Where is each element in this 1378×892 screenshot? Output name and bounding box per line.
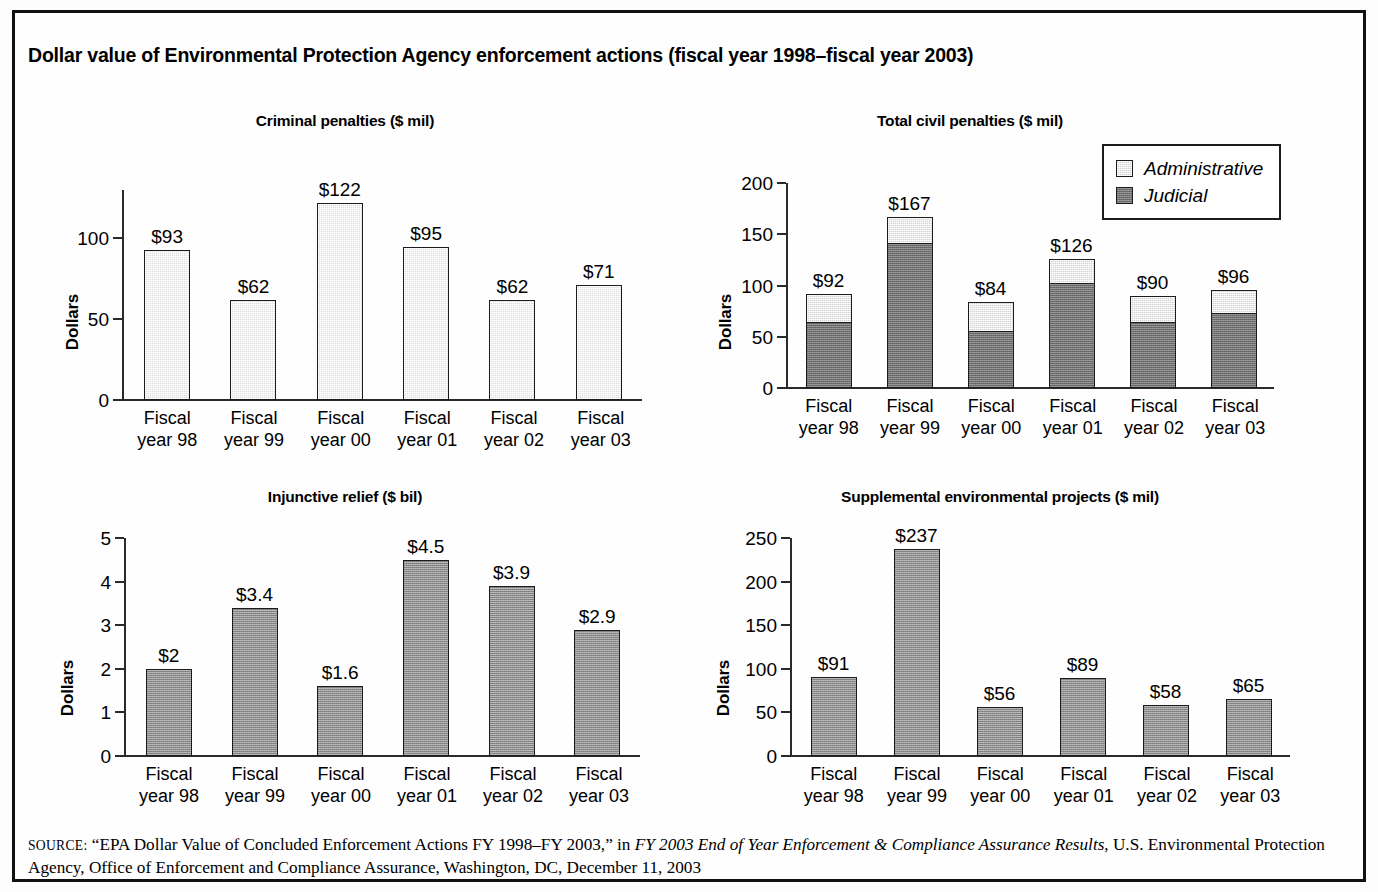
x-axis-label: Fiscalyear 02 — [471, 408, 558, 452]
bar[interactable]: $56 — [977, 707, 1023, 756]
bar-slot: $84 — [950, 183, 1031, 388]
bar[interactable]: $122 — [317, 203, 363, 400]
bar[interactable]: $95 — [403, 247, 449, 400]
bar[interactable]: $93 — [144, 250, 190, 400]
x-axis-label-line1: Fiscal — [1125, 764, 1208, 786]
legend-swatch-administrative-icon — [1116, 160, 1133, 177]
bar-value-label: $126 — [1050, 236, 1092, 255]
x-axis-label-line1: Fiscal — [951, 396, 1032, 418]
source-note: SOURCE: “EPA Dollar Value of Concluded E… — [28, 834, 1338, 879]
x-axis-label-line2: year 02 — [471, 430, 558, 452]
bar[interactable]: $91 — [811, 677, 857, 756]
legend-item-judicial[interactable]: Judicial — [1116, 182, 1263, 209]
x-axis-label: Fiscalyear 01 — [384, 408, 471, 452]
bar[interactable]: $3.4 — [232, 608, 278, 756]
x-axis-label-line2: year 02 — [1113, 418, 1194, 440]
chart-ylabel-supplemental-environmental-projects: Dollars — [714, 648, 734, 728]
chart-ylabel-criminal-penalties: Dollars — [63, 282, 83, 362]
y-tick-label: 5 — [100, 529, 111, 548]
bar[interactable]: $126 — [1049, 259, 1095, 388]
chart-title-supplemental-environmental-projects: Supplemental environmental projects ($ m… — [700, 488, 1300, 506]
bar-value-label: $3.4 — [236, 585, 273, 604]
bar-segment-judicial[interactable] — [1050, 283, 1094, 387]
bar-segment-administrative[interactable] — [1050, 260, 1094, 283]
bar[interactable]: $65 — [1226, 699, 1272, 756]
bar-segment-judicial[interactable] — [807, 322, 851, 387]
bar[interactable]: $2.9 — [574, 630, 620, 756]
bar-slot: $65 — [1207, 538, 1290, 756]
bar[interactable]: $84 — [968, 302, 1014, 388]
x-axis-label-line2: year 03 — [557, 430, 644, 452]
bar-slot: $237 — [875, 538, 958, 756]
bar[interactable]: $89 — [1060, 678, 1106, 756]
bar-value-label: $91 — [818, 654, 850, 673]
x-axis-label-line2: year 01 — [1032, 418, 1113, 440]
bar-value-label: $71 — [583, 262, 615, 281]
bar[interactable]: $58 — [1143, 705, 1189, 756]
bar-value-label: $167 — [888, 194, 930, 213]
bar-value-label: $93 — [151, 227, 183, 246]
bar[interactable]: $71 — [576, 285, 622, 400]
x-axis-label-line2: year 03 — [556, 786, 642, 808]
bar-slot: $3.4 — [212, 538, 298, 756]
x-axis-label: Fiscalyear 02 — [1125, 764, 1208, 808]
bar-segment-administrative[interactable] — [1131, 297, 1175, 322]
bar[interactable]: $62 — [230, 300, 276, 400]
y-tick — [113, 237, 122, 239]
source-publication-1: FY 2003 End of Year Enforcement & Compli… — [635, 835, 1051, 854]
x-axis-labels-criminal-penalties: Fiscalyear 98Fiscalyear 99Fiscalyear 00F… — [124, 408, 644, 452]
bar[interactable]: $92 — [806, 294, 852, 388]
bar[interactable]: $2 — [146, 669, 192, 756]
y-tick — [781, 581, 790, 583]
legend-label-judicial: Judicial — [1144, 185, 1207, 207]
y-tick — [777, 233, 786, 235]
y-tick-label: 4 — [100, 572, 111, 591]
bar[interactable]: $1.6 — [317, 686, 363, 756]
bar[interactable]: $237 — [894, 549, 940, 756]
legend-label-administrative: Administrative — [1144, 158, 1263, 180]
y-tick — [781, 624, 790, 626]
bar-value-label: $62 — [238, 277, 270, 296]
bar-group: $93$62$122$95$62$71 — [124, 190, 642, 400]
bar-segment-judicial[interactable] — [1212, 313, 1256, 387]
bar-segment-administrative[interactable] — [969, 303, 1013, 331]
x-axis-label: Fiscalyear 03 — [556, 764, 642, 808]
x-axis-label-line2: year 99 — [875, 786, 958, 808]
bar[interactable]: $4.5 — [403, 560, 449, 756]
x-axis-label: Fiscalyear 00 — [297, 408, 384, 452]
bar-segment-administrative[interactable] — [1212, 291, 1256, 314]
bar-value-label: $58 — [1150, 682, 1182, 701]
x-axis-label-line1: Fiscal — [1042, 764, 1125, 786]
bar-segment-judicial[interactable] — [969, 331, 1013, 387]
bar-segment-judicial[interactable] — [888, 243, 932, 387]
bar[interactable]: $3.9 — [489, 586, 535, 756]
y-tick — [115, 711, 124, 713]
bar[interactable]: $62 — [489, 300, 535, 400]
y-tick — [781, 711, 790, 713]
bar[interactable]: $90 — [1130, 296, 1176, 388]
bar-slot: $126 — [1031, 183, 1112, 388]
x-axis-label-line2: year 00 — [297, 430, 384, 452]
bar-segment-administrative[interactable] — [888, 218, 932, 243]
plot-area-criminal-penalties: 050100$93$62$122$95$62$71 — [122, 190, 642, 400]
x-axis-label: Fiscalyear 98 — [788, 396, 869, 440]
bar[interactable]: $167 — [887, 217, 933, 388]
bar-slot: $56 — [958, 538, 1041, 756]
y-tick — [115, 755, 124, 757]
legend-item-administrative[interactable]: Administrative — [1116, 155, 1263, 182]
x-axis-label: Fiscalyear 03 — [557, 408, 644, 452]
bar-segment-judicial[interactable] — [1131, 322, 1175, 387]
y-tick — [781, 668, 790, 670]
x-axis-label-line1: Fiscal — [869, 396, 950, 418]
bar-value-label: $2.9 — [579, 607, 616, 626]
bar-value-label: $90 — [1137, 273, 1169, 292]
x-axis-label: Fiscalyear 01 — [384, 764, 470, 808]
x-axis-label-line1: Fiscal — [126, 764, 212, 786]
bar[interactable]: $96 — [1211, 290, 1257, 388]
y-tick — [777, 387, 786, 389]
y-tick-label: 50 — [752, 327, 773, 346]
chart-ylabel-total-civil-penalties: Dollars — [716, 282, 736, 362]
bar-segment-administrative[interactable] — [807, 295, 851, 323]
y-tick-label: 0 — [100, 747, 111, 766]
bar-value-label: $2 — [158, 646, 179, 665]
